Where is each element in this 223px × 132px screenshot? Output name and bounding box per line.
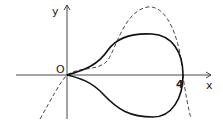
y-axis	[64, 5, 70, 119]
y-axis-label: y	[52, 5, 59, 18]
origin-label: O	[56, 63, 65, 76]
x-tick-label-4: 4	[176, 78, 184, 91]
x-axis-label: x	[206, 79, 213, 92]
diagram: y O 4 x	[0, 0, 223, 132]
